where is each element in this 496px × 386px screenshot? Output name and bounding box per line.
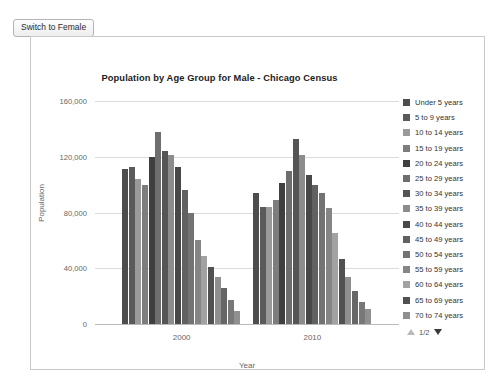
bar[interactable] [273, 200, 279, 324]
legend-swatch [403, 145, 410, 152]
bar[interactable] [135, 179, 141, 324]
bar[interactable] [142, 185, 148, 324]
legend-label: 70 to 74 years [415, 311, 463, 320]
legend-item[interactable]: 20 to 24 years [403, 156, 487, 171]
y-axis-tick-label: 160,000 [27, 97, 87, 106]
legend-label: 10 to 14 years [415, 128, 463, 137]
legend-swatch [403, 129, 410, 136]
gridline [95, 324, 399, 325]
legend-item[interactable]: 5 to 9 years [403, 110, 487, 125]
chart-title-text: Population by Age Group for Male - Chica… [102, 73, 338, 83]
legend-label: 65 to 69 years [415, 296, 463, 305]
bar[interactable] [129, 167, 135, 324]
bar[interactable] [122, 169, 128, 324]
bar[interactable] [162, 151, 168, 324]
legend-swatch [403, 281, 410, 288]
legend-page-down-icon[interactable] [434, 329, 442, 335]
bar[interactable] [286, 171, 292, 324]
legend-label: 25 to 29 years [415, 174, 463, 183]
bar[interactable] [175, 167, 181, 324]
legend-item[interactable]: 15 to 19 years [403, 141, 487, 156]
legend-label: 35 to 39 years [415, 204, 463, 213]
toolbar: Switch to Female [13, 16, 94, 37]
legend-swatch [403, 190, 410, 197]
y-axis-tick-label: 80,000 [27, 209, 87, 218]
legend-label: 60 to 64 years [415, 280, 463, 289]
legend-page-up-icon[interactable] [407, 329, 415, 335]
legend-label: Under 5 years [415, 98, 463, 107]
bar[interactable] [266, 207, 272, 324]
legend-item[interactable]: 45 to 49 years [403, 232, 487, 247]
bar[interactable] [149, 157, 155, 324]
legend-swatch [403, 205, 410, 212]
legend-item[interactable]: 25 to 29 years [403, 171, 487, 186]
bar[interactable] [359, 302, 365, 324]
legend-label: 45 to 49 years [415, 235, 463, 244]
x-axis-title: Year [95, 361, 399, 370]
bar[interactable] [182, 190, 188, 324]
legend-item[interactable]: 35 to 39 years [403, 201, 487, 216]
y-axis-tick-label: 120,000 [27, 153, 87, 162]
bar[interactable] [339, 259, 345, 325]
bar[interactable] [253, 193, 259, 324]
legend-item[interactable]: 10 to 14 years [403, 125, 487, 140]
bar[interactable] [299, 155, 305, 324]
bar[interactable] [155, 132, 161, 324]
bar[interactable] [332, 233, 338, 324]
legend-label: 55 to 59 years [415, 265, 463, 274]
bar[interactable] [312, 185, 318, 324]
bar[interactable] [201, 256, 207, 324]
legend-item[interactable]: Under 5 years [403, 95, 487, 110]
legend-pager[interactable]: 1/2 [403, 328, 487, 337]
legend-items: Under 5 years5 to 9 years10 to 14 years1… [403, 95, 487, 323]
legend-item[interactable]: 40 to 44 years [403, 217, 487, 232]
legend-swatch [403, 312, 410, 319]
bar[interactable] [195, 240, 201, 324]
legend-item[interactable]: 30 to 34 years [403, 186, 487, 201]
legend-swatch [403, 266, 410, 273]
legend-swatch [403, 251, 410, 258]
switch-to-female-button[interactable]: Switch to Female [13, 19, 94, 37]
page-root: Switch to Female Population by Age Group… [0, 0, 496, 386]
legend-item[interactable]: 60 to 64 years [403, 277, 487, 292]
bar[interactable] [306, 175, 312, 324]
legend-label: 15 to 19 years [415, 144, 463, 153]
legend-swatch [403, 99, 410, 106]
bar[interactable] [188, 213, 194, 325]
legend-label: 20 to 24 years [415, 159, 463, 168]
legend-swatch [403, 175, 410, 182]
bar[interactable] [228, 300, 234, 324]
bar[interactable] [221, 288, 227, 324]
bar[interactable] [215, 277, 221, 324]
legend-page-count: 1/2 [419, 328, 430, 337]
legend-item[interactable]: 50 to 54 years [403, 247, 487, 262]
legend-swatch [403, 114, 410, 121]
legend-item[interactable]: 70 to 74 years [403, 308, 487, 323]
legend-label: 40 to 44 years [415, 220, 463, 229]
legend-swatch [403, 221, 410, 228]
chart-panel: Population by Age Group for Male - Chica… [30, 36, 485, 370]
legend-label: 30 to 34 years [415, 189, 463, 198]
y-axis-tick-label: 40,000 [27, 264, 87, 273]
bar[interactable] [279, 183, 285, 324]
bar[interactable] [293, 139, 299, 324]
bar[interactable] [365, 309, 371, 324]
bar-group-2010 [253, 101, 372, 324]
bar[interactable] [234, 311, 240, 324]
legend-swatch [403, 236, 410, 243]
bar[interactable] [352, 291, 358, 324]
legend-swatch [403, 160, 410, 167]
bar[interactable] [260, 207, 266, 324]
legend-item[interactable]: 55 to 59 years [403, 262, 487, 277]
legend-label: 5 to 9 years [415, 113, 455, 122]
plot-area: 040,00080,000120,000160,000 20002010 Yea… [95, 101, 399, 324]
legend-item[interactable]: 65 to 69 years [403, 292, 487, 307]
bar[interactable] [326, 208, 332, 324]
legend: Under 5 years5 to 9 years10 to 14 years1… [403, 95, 487, 337]
bar[interactable] [319, 193, 325, 324]
bar-group-2000 [122, 101, 241, 324]
x-axis-tick-label: 2000 [173, 333, 191, 342]
bar[interactable] [168, 155, 174, 324]
bar[interactable] [345, 277, 351, 324]
bar[interactable] [208, 267, 214, 324]
